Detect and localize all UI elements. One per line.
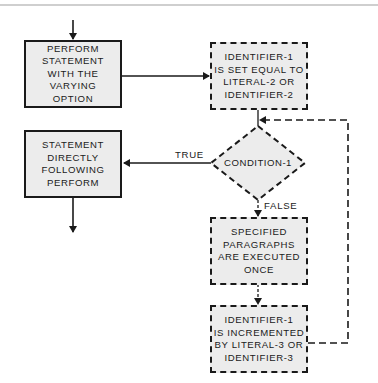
- box-line: DIRECTLY: [47, 152, 99, 165]
- box-line: IDENTIFIER-1: [224, 51, 293, 64]
- perform-statement-box: PERFORM STATEMENT WITH THE VARYING OPTIO…: [24, 40, 122, 108]
- box-line: LITERAL-2 OR: [223, 76, 295, 89]
- box-line: PERFORM: [47, 177, 99, 190]
- condition-label: CONDITION-1: [211, 157, 305, 168]
- box-line: PERFORM: [47, 43, 99, 56]
- box-line: STATEMENT: [42, 139, 104, 152]
- box-line: IDENTIFIER-3: [224, 352, 293, 365]
- false-label: FALSE: [264, 200, 297, 211]
- box-line: STATEMENT: [42, 55, 104, 68]
- box-line: WITH THE: [48, 68, 99, 81]
- execute-paragraphs-box: SPECIFIED PARAGRAPHS ARE EXECUTED ONCE: [210, 217, 308, 285]
- true-label: TRUE: [175, 149, 204, 160]
- next-statement-box: STATEMENT DIRECTLY FOLLOWING PERFORM: [24, 130, 122, 198]
- box-line: SPECIFIED: [231, 226, 287, 239]
- box-line: IDENTIFIER-1: [224, 314, 293, 327]
- box-line: ARE EXECUTED: [218, 251, 300, 264]
- box-line: BY LITERAL-3 OR: [215, 339, 304, 352]
- box-line: IS INCREMENTED: [214, 327, 305, 340]
- box-line: IS SET EQUAL TO: [214, 64, 304, 77]
- box-line: IDENTIFIER-2: [224, 89, 293, 102]
- box-line: FOLLOWING: [42, 164, 105, 177]
- box-line: ONCE: [244, 264, 274, 277]
- box-line: OPTION: [53, 93, 93, 106]
- box-line: VARYING: [50, 80, 97, 93]
- box-line: PARAGRAPHS: [223, 239, 295, 252]
- increment-identifier-box: IDENTIFIER-1 IS INCREMENTED BY LITERAL-3…: [210, 305, 308, 373]
- set-identifier-box: IDENTIFIER-1 IS SET EQUAL TO LITERAL-2 O…: [210, 42, 308, 110]
